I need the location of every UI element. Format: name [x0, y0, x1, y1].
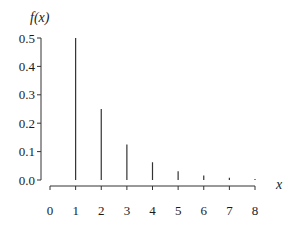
stem-plot: f(x) x 0.00.10.20.30.40.5 012345678 — [0, 0, 295, 227]
y-tick-label: 0.2 — [19, 116, 35, 131]
chart-container: f(x) x 0.00.10.20.30.40.5 012345678 — [0, 0, 295, 227]
y-axis: 0.00.10.20.30.40.5 — [19, 31, 41, 188]
y-tick-label: 0.1 — [19, 144, 35, 159]
x-tick-label: 2 — [98, 203, 105, 218]
x-tick-label: 4 — [149, 203, 156, 218]
x-tick-label: 6 — [201, 203, 208, 218]
y-tick-label: 0.5 — [19, 31, 35, 46]
y-tick-label: 0.4 — [19, 59, 36, 74]
x-tick-label: 7 — [226, 203, 233, 218]
y-tick-label: 0.0 — [19, 173, 35, 188]
y-tick-label: 0.3 — [19, 87, 35, 102]
x-tick-label: 5 — [175, 203, 182, 218]
x-axis: 012345678 — [47, 186, 259, 218]
x-axis-title: x — [275, 177, 283, 192]
x-tick-label: 0 — [47, 203, 54, 218]
x-tick-label: 3 — [124, 203, 131, 218]
stems — [76, 38, 255, 180]
x-tick-label: 8 — [252, 203, 259, 218]
y-axis-title: f(x) — [30, 10, 50, 26]
x-tick-label: 1 — [72, 203, 79, 218]
